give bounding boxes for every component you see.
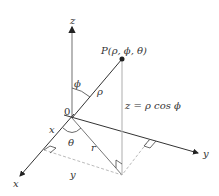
right-angle-foot: [116, 160, 122, 168]
y-axis-label: y: [202, 148, 209, 159]
theta-label: θ: [68, 137, 74, 148]
x-component-label: x: [49, 124, 55, 135]
x-axis: [20, 114, 74, 176]
y-axis: [64, 115, 198, 153]
point-label: P(ρ, ϕ, θ): [100, 45, 147, 56]
theta-arc: [63, 128, 81, 133]
r-segment: [72, 118, 122, 175]
origin-label: 0: [64, 106, 70, 117]
phi-label: ϕ: [74, 78, 81, 89]
z-formula-label: z = ρ cos ϕ: [124, 100, 181, 111]
x-axis-label: x: [13, 178, 19, 189]
phi-arc: [72, 88, 90, 97]
r-label: r: [91, 142, 97, 153]
point-p: [120, 57, 125, 62]
y-component-label: y: [69, 169, 76, 180]
rho-label: ρ: [96, 86, 103, 97]
y-projection: [44, 150, 122, 175]
z-axis-label: z: [69, 15, 76, 26]
spherical-coordinates-diagram: z P(ρ, ϕ, θ) ϕ ρ z = ρ cos ϕ 0 x θ r y y…: [0, 0, 219, 196]
